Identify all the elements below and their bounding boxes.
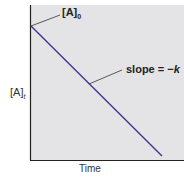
plot-area (30, 5, 184, 160)
chart-plot (0, 0, 184, 177)
x-axis-label: Time (79, 163, 101, 174)
y-axis-label: [A]t (10, 86, 25, 100)
intercept-label: [A]0 (62, 6, 81, 20)
slope-label: slope = −k (126, 63, 180, 75)
